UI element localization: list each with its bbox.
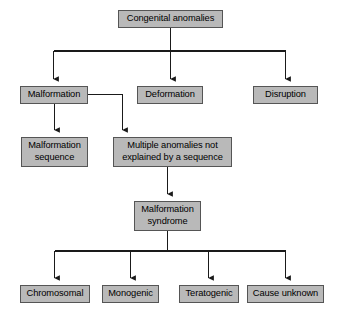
- node-chromosomal[interactable]: Chromosomal: [20, 285, 90, 303]
- node-congenital-anomalies[interactable]: Congenital anomalies: [118, 10, 223, 28]
- node-monogenic[interactable]: Monogenic: [102, 285, 159, 303]
- flowchart-diagram: Congenital anomalies Malformation Deform…: [0, 0, 341, 318]
- node-disruption[interactable]: Disruption: [253, 86, 318, 104]
- edge-malformation-to-multiple: [88, 95, 123, 131]
- node-malformation-sequence[interactable]: Malformation sequence: [21, 137, 88, 167]
- node-cause-unknown[interactable]: Cause unknown: [247, 285, 324, 303]
- node-malformation[interactable]: Malformation: [20, 86, 88, 104]
- node-multiple-anomalies[interactable]: Multiple anomalies not explained by a se…: [113, 137, 232, 167]
- node-deformation[interactable]: Deformation: [137, 86, 203, 104]
- node-teratogenic[interactable]: Teratogenic: [179, 285, 239, 303]
- node-malformation-syndrome[interactable]: Malformation syndrome: [134, 201, 201, 231]
